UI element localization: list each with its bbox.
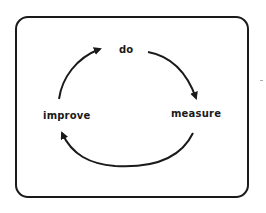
cycle-arrows <box>0 0 266 213</box>
node-do: do <box>119 44 133 55</box>
arrow-do-to-measure <box>148 52 196 98</box>
node-improve: improve <box>43 110 91 121</box>
node-measure: measure <box>171 108 221 119</box>
arrow-improve-to-do <box>59 49 100 99</box>
margin-mark <box>260 80 263 81</box>
arrow-measure-to-improve <box>62 133 193 166</box>
